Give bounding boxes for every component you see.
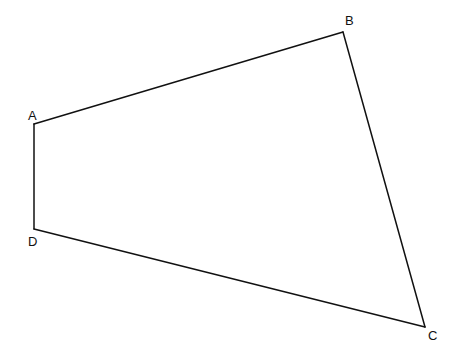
quadrilateral-diagram: A B C D bbox=[0, 0, 458, 360]
vertex-label-a: A bbox=[28, 108, 37, 123]
edge-bc bbox=[343, 32, 425, 327]
vertex-label-d: D bbox=[28, 234, 37, 249]
vertex-label-c: C bbox=[428, 328, 437, 343]
vertex-label-b: B bbox=[345, 13, 354, 28]
edge-ab bbox=[34, 32, 343, 124]
edge-cd bbox=[34, 229, 425, 327]
vertex-labels: A B C D bbox=[28, 13, 437, 343]
edges bbox=[34, 32, 425, 327]
